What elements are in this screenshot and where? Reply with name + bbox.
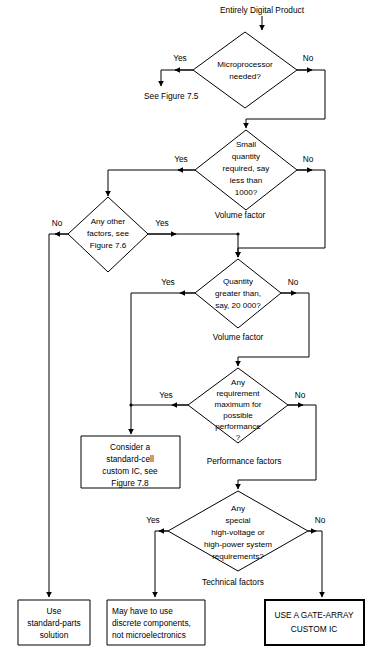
connector-microprocessor-yes — [161, 70, 193, 86]
flowchart-diagram: Entirely Digital Product Microprocessor … — [0, 0, 380, 655]
edge-label-technical-no: No — [315, 515, 326, 525]
diagram-title: Entirely Digital Product — [220, 5, 305, 15]
decision-quantity-greater-line-1: greater than, — [215, 289, 261, 298]
box-gate-array-line-0: USE A GATE-ARRAY — [275, 610, 354, 620]
decision-performance-line-2: maximum for — [215, 400, 262, 409]
decision-technical-line-0: Any — [231, 504, 246, 513]
edge-label-microprocessor-no: No — [303, 53, 314, 63]
factor-label-technical: Technical factors — [202, 577, 264, 587]
junction-quantity-inbound — [236, 232, 239, 235]
decision-any-other-factors-line-1: factors, see — [87, 229, 129, 238]
box-discrete-components-line-1: discrete components, — [112, 618, 191, 628]
decision-microprocessor-line-1: needed? — [229, 72, 261, 81]
connector-small-quantity-yes — [108, 170, 195, 196]
connector-any-other-factors-yes — [148, 234, 238, 257]
connector-technical-no — [308, 531, 322, 597]
connector-performance-yes — [131, 405, 188, 434]
box-standard-cell-line-2: custom IC, see — [102, 466, 158, 476]
junction-standard-cell-inbound — [129, 403, 132, 406]
edge-label-performance-yes: Yes — [159, 390, 173, 400]
decision-any-other-factors-line-2: Figure 7.6 — [90, 241, 127, 250]
connector-any-other-factors-no — [49, 234, 68, 597]
decision-small-quantity-line-4: 1000? — [235, 188, 258, 197]
decision-technical-line-1: special — [225, 516, 250, 525]
box-standard-cell-line-0: Consider a — [110, 442, 151, 452]
factor-label-volume-1: Volume factor — [215, 210, 266, 220]
decision-performance-line-3: possible — [223, 411, 253, 420]
box-standard-parts-line-2: solution — [40, 630, 69, 640]
decision-microprocessor — [193, 32, 297, 108]
decision-technical-line-4: requirements? — [212, 552, 264, 561]
box-gate-array — [265, 600, 364, 645]
box-discrete-components-line-0: May have to use — [112, 606, 173, 616]
decision-microprocessor-line-0: Microprocessor — [217, 60, 273, 69]
edge-label-any-other-factors-yes: Yes — [155, 218, 169, 228]
decision-small-quantity-line-1: quantity — [232, 152, 261, 161]
box-standard-parts-line-1: standard-parts — [27, 618, 81, 628]
connector-quantity-greater-yes — [131, 293, 195, 405]
edge-label-technical-yes: Yes — [146, 515, 160, 525]
decision-performance-line-0: Any — [231, 378, 246, 387]
edge-label-small-quantity-yes: Yes — [174, 154, 188, 164]
box-standard-cell-line-1: standard-cell — [106, 454, 154, 464]
decision-small-quantity-line-2: required, say — [223, 164, 271, 173]
decision-technical-line-3: high-power system — [204, 540, 272, 549]
box-gate-array-line-1: CUSTOM IC — [291, 624, 337, 634]
box-discrete-components-line-2: not microelectronics — [112, 630, 186, 640]
decision-performance-line-4: performance — [215, 422, 261, 431]
decision-technical-line-2: high-voltage or — [211, 528, 265, 537]
factor-label-volume-2: Volume factor — [213, 332, 264, 342]
decision-performance-line-5: ? — [236, 433, 241, 442]
connector-technical-yes — [155, 531, 168, 597]
factor-label-performance: Performance factors — [207, 456, 282, 466]
decision-performance-line-1: requirement — [216, 389, 260, 398]
decision-small-quantity-line-0: Small — [236, 140, 256, 149]
edge-label-quantity-greater-yes: Yes — [161, 277, 175, 287]
edge-label-small-quantity-no: No — [303, 154, 314, 164]
decision-small-quantity-line-3: less than — [230, 176, 262, 185]
edge-label-microprocessor-yes: Yes — [173, 53, 187, 63]
edge-label-performance-no: No — [295, 390, 306, 400]
decision-quantity-greater-line-2: say, 20 000? — [215, 301, 261, 310]
decision-any-other-factors-line-0: Any other — [91, 217, 126, 226]
edge-label-any-other-factors-no: No — [52, 218, 63, 228]
box-standard-parts-line-0: Use — [47, 606, 62, 616]
box-standard-cell-line-3: Figure 7.8 — [111, 478, 149, 488]
edge-label-quantity-greater-no: No — [288, 277, 299, 287]
reference-figure-7-5: See Figure 7.5 — [144, 91, 199, 101]
decision-quantity-greater-line-0: Quantity — [223, 277, 254, 286]
